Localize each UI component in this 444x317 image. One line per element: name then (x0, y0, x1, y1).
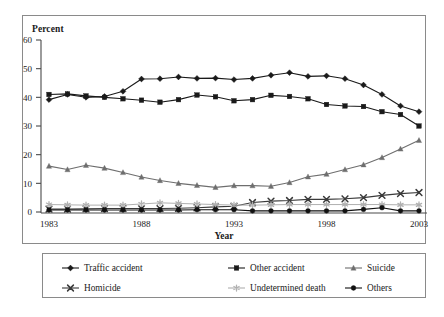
marker-diamond (416, 109, 422, 115)
diamond-marker (361, 82, 367, 88)
square-marker (324, 102, 329, 107)
circle-marker (65, 208, 70, 213)
marker-circle (65, 208, 70, 213)
y-tick-label: 20 (23, 150, 33, 160)
marker-diamond (268, 72, 274, 78)
series-undetermined-death (46, 200, 421, 208)
square-marker (343, 104, 348, 109)
marker-square (176, 97, 181, 102)
triangle-marker (83, 162, 88, 167)
marker-square (306, 96, 311, 101)
y-tick-label: 30 (23, 121, 33, 131)
marker-circle (417, 208, 422, 213)
circle-marker (121, 208, 126, 213)
chart-svg: 010203040506019831988199319982003 Traffi… (0, 0, 444, 317)
chart-figure: Percent Year 010203040506019831988199319… (0, 0, 444, 317)
marker-square (121, 96, 126, 101)
marker-circle (84, 208, 89, 213)
marker-square (139, 98, 144, 103)
marker-diamond (398, 103, 404, 109)
marker-square (84, 94, 89, 99)
marker-square (324, 102, 329, 107)
marker-square (65, 92, 70, 97)
marker-diamond (120, 88, 126, 94)
marker-circle (343, 208, 348, 213)
circle-marker (306, 208, 311, 213)
y-tick-label: 0 (28, 207, 33, 217)
marker-diamond (305, 74, 311, 80)
y-tick-label: 50 (23, 64, 33, 74)
diamond-marker (342, 76, 348, 82)
diamond-marker (305, 74, 311, 80)
circle-marker (361, 207, 366, 212)
legend-entry-other-accident[interactable]: Other accident (228, 263, 305, 273)
marker-circle (102, 208, 107, 213)
square-marker (65, 92, 70, 97)
square-marker (361, 104, 366, 109)
marker-triangle (46, 163, 51, 168)
marker-diamond (379, 92, 385, 98)
marker-circle (232, 207, 237, 212)
triangle-marker (416, 138, 421, 143)
square-marker (158, 100, 163, 105)
square-marker (47, 92, 52, 97)
marker-circle (158, 208, 163, 213)
marker-square (287, 94, 292, 99)
marker-diamond (324, 73, 330, 79)
diamond-marker (213, 75, 219, 81)
legend-label: Undetermined death (250, 283, 326, 293)
diamond-marker (157, 76, 163, 82)
marker-diamond (68, 265, 74, 271)
diamond-marker (287, 70, 293, 76)
diamond-marker (139, 76, 145, 82)
axis-layer: 010203040506019831988199319982003 (23, 35, 429, 229)
marker-diamond (361, 82, 367, 88)
legend-entry-suicide[interactable]: Suicide (345, 263, 395, 273)
circle-marker (250, 208, 255, 213)
x-tick-label: 1988 (133, 219, 152, 229)
marker-diamond (46, 97, 52, 103)
marker-square (213, 94, 218, 99)
legend-entry-homicide[interactable]: Homicide (62, 283, 121, 293)
marker-square (380, 109, 385, 114)
square-marker (417, 124, 422, 129)
marker-square (158, 100, 163, 105)
square-marker (139, 98, 144, 103)
marker-circle (250, 208, 255, 213)
series-layer (46, 70, 422, 213)
legend-layer: Traffic accidentOther accidentSuicideHom… (62, 263, 395, 293)
marker-diamond (213, 75, 219, 81)
diamond-marker (231, 77, 237, 83)
marker-circle (269, 208, 274, 213)
square-marker (176, 97, 181, 102)
marker-circle (139, 208, 144, 213)
legend-entry-traffic-accident[interactable]: Traffic accident (62, 263, 143, 273)
diamond-marker (268, 72, 274, 78)
marker-circle (398, 208, 403, 213)
marker-diamond (287, 70, 293, 76)
circle-marker (195, 207, 200, 212)
legend-label: Other accident (250, 263, 305, 273)
triangle-marker (46, 163, 51, 168)
diamond-marker (194, 76, 200, 82)
diamond-marker (176, 74, 182, 80)
marker-circle (351, 286, 356, 291)
diamond-marker (379, 92, 385, 98)
marker-square (232, 98, 237, 103)
circle-marker (324, 208, 329, 213)
legend-entry-others[interactable]: Others (345, 283, 392, 293)
circle-marker (351, 286, 356, 291)
square-marker (232, 98, 237, 103)
marker-square (361, 104, 366, 109)
circle-marker (269, 208, 274, 213)
marker-square (343, 104, 348, 109)
square-marker (84, 94, 89, 99)
square-marker (306, 96, 311, 101)
square-marker (102, 95, 107, 100)
marker-circle (324, 208, 329, 213)
marker-circle (195, 207, 200, 212)
marker-diamond (231, 77, 237, 83)
legend-label: Homicide (84, 283, 121, 293)
circle-marker (47, 208, 52, 213)
legend-entry-undetermined-death[interactable]: Undetermined death (228, 283, 326, 293)
